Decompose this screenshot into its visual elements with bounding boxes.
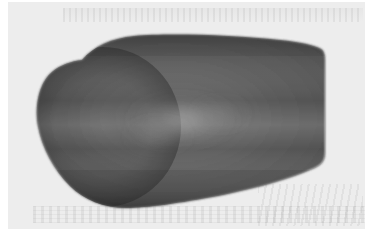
specimen-lower-shadow bbox=[8, 170, 365, 210]
specimen-image bbox=[8, 2, 365, 229]
specimen-wrap bbox=[8, 2, 365, 229]
figure-root: Dark rounded-polygonal specimen on a lig… bbox=[0, 0, 373, 247]
specular-highlight-secondary bbox=[124, 122, 192, 148]
figure-alt-text: Dark rounded-polygonal specimen on a lig… bbox=[0, 0, 1, 1]
specimen-upper-shadow bbox=[8, 30, 365, 56]
scan-field bbox=[8, 2, 365, 229]
specular-highlight-tertiary bbox=[190, 102, 250, 126]
